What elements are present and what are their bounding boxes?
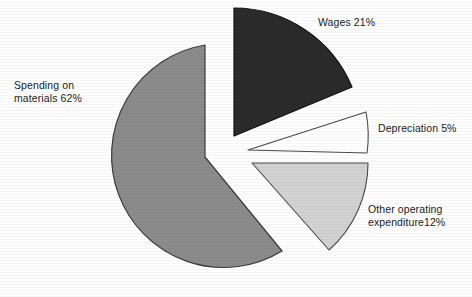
pie-label-spending-on-materials: Spending onmaterials 62% (14, 79, 82, 105)
pie-label-depreciation: Depreciation 5% (378, 122, 457, 135)
pie-label-materials-line2: materials 62% (14, 92, 82, 104)
pie-chart-figure: Wages 21% Depreciation 5% Other operatin… (0, 0, 472, 297)
pie-label-wages: Wages 21% (318, 16, 375, 29)
pie-label-other-line2: expenditure12% (368, 216, 445, 228)
pie-label-other-operating-expenditure: Other operatingexpenditure12% (368, 203, 445, 229)
pie-label-materials-line1: Spending on (14, 79, 74, 91)
pie-label-other-line1: Other operating (368, 203, 442, 215)
pie-chart-svg (0, 0, 472, 297)
